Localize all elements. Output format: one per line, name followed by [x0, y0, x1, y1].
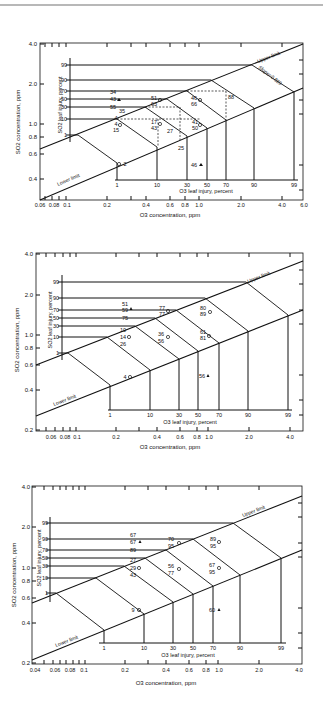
inner-y-label: SO2 leaf injury, percent [57, 76, 63, 134]
circle-marker [117, 162, 120, 165]
circle-marker [127, 335, 130, 338]
svg-text:9: 9 [131, 607, 134, 613]
svg-text:1: 1 [56, 350, 59, 356]
data-points: 34 43 55 51 63 46 66 88 35 4 4 15 17 43 … [110, 89, 234, 168]
svg-text:0.2: 0.2 [22, 660, 31, 666]
svg-text:0.1: 0.1 [80, 667, 88, 673]
svg-text:10: 10 [154, 182, 160, 188]
svg-text:4.0: 4.0 [22, 484, 31, 490]
svg-text:70: 70 [168, 536, 174, 542]
svg-text:1: 1 [108, 412, 111, 418]
svg-text:36: 36 [158, 331, 164, 337]
circle-marker [198, 123, 201, 126]
svg-text:0.8: 0.8 [202, 667, 210, 673]
svg-text:30: 30 [170, 645, 176, 651]
inner-y-label: SO2 leaf injury, percent [36, 529, 42, 587]
triangle-marker [130, 307, 133, 310]
svg-text:10: 10 [141, 645, 147, 651]
svg-text:0.6: 0.6 [166, 202, 174, 208]
svg-text:77: 77 [168, 570, 174, 576]
svg-text:27: 27 [130, 557, 136, 563]
circle-marker [177, 541, 180, 544]
iso-injury-diagonals [68, 282, 288, 385]
svg-text:60: 60 [209, 607, 215, 613]
svg-text:1: 1 [64, 132, 67, 138]
svg-text:75: 75 [122, 315, 128, 321]
y-axis-label: SO2 concentration, ppm [15, 90, 21, 155]
svg-text:0.06: 0.06 [46, 434, 57, 440]
svg-text:0.08: 0.08 [49, 202, 60, 208]
svg-text:66: 66 [191, 101, 197, 107]
svg-text:89: 89 [200, 311, 206, 317]
svg-text:27: 27 [167, 128, 173, 134]
svg-text:10: 10 [42, 575, 48, 581]
svg-text:1: 1 [102, 645, 105, 651]
svg-text:56: 56 [158, 338, 164, 344]
svg-text:1.0: 1.0 [195, 202, 203, 208]
svg-text:95: 95 [168, 543, 174, 549]
svg-text:95: 95 [209, 569, 215, 575]
inner-y-label: SO2 leaf injury, percent [47, 291, 53, 349]
svg-text:0.6: 0.6 [29, 151, 38, 157]
svg-text:2.0: 2.0 [29, 81, 38, 87]
svg-text:81: 81 [200, 335, 206, 341]
circle-marker [166, 335, 169, 338]
chart-1: 4.0 2.0 1.0 0.8 0.6 0.4 SO2 concentratio… [0, 0, 323, 240]
circle-marker [177, 567, 180, 570]
svg-text:0.2: 0.2 [25, 427, 34, 433]
chart-3: 4.0 2.0 1.0 0.8 0.6 0.4 0.2 SO2 concentr… [0, 480, 323, 714]
svg-text:1.0: 1.0 [25, 332, 34, 338]
svg-text:0.08: 0.08 [65, 667, 76, 673]
svg-text:50: 50 [192, 125, 198, 131]
svg-text:4.0: 4.0 [286, 434, 294, 440]
upper-limit-label: Upper limit [241, 504, 266, 518]
svg-text:89: 89 [130, 547, 136, 553]
svg-text:56: 56 [199, 373, 205, 379]
svg-text:90: 90 [237, 645, 243, 651]
svg-text:35: 35 [119, 108, 125, 114]
svg-text:43: 43 [110, 96, 116, 102]
svg-text:0.8: 0.8 [25, 345, 34, 351]
svg-text:6.0: 6.0 [300, 202, 308, 208]
svg-text:0.4: 0.4 [142, 202, 150, 208]
svg-text:90: 90 [53, 295, 59, 301]
svg-text:10: 10 [147, 412, 153, 418]
data-points: 67 67 89 70 95 89 95 27 29 43 56 77 67 9… [130, 532, 221, 613]
svg-text:1: 1 [115, 182, 118, 188]
svg-text:50: 50 [190, 645, 196, 651]
svg-text:15: 15 [113, 127, 119, 133]
svg-text:4.0: 4.0 [278, 202, 286, 208]
svg-text:2.0: 2.0 [245, 434, 253, 440]
svg-text:1.0: 1.0 [29, 121, 38, 127]
svg-text:34: 34 [110, 89, 116, 95]
svg-text:59: 59 [122, 307, 128, 313]
svg-text:2.0: 2.0 [255, 667, 263, 673]
svg-text:67: 67 [130, 532, 136, 538]
svg-text:0.4: 0.4 [29, 176, 38, 182]
svg-text:1.0: 1.0 [205, 434, 213, 440]
svg-text:26: 26 [120, 341, 126, 347]
svg-text:0.4: 0.4 [153, 434, 161, 440]
svg-text:90: 90 [245, 412, 251, 418]
svg-text:95: 95 [210, 543, 216, 549]
svg-text:0.6: 0.6 [185, 667, 193, 673]
svg-text:55: 55 [110, 104, 116, 110]
svg-text:30: 30 [53, 323, 59, 329]
circle-marker [217, 566, 220, 569]
svg-text:4.0: 4.0 [29, 41, 38, 47]
svg-text:25: 25 [178, 145, 184, 151]
svg-text:99: 99 [42, 520, 48, 526]
circle-marker [118, 123, 121, 126]
x-axis-label: O3 concentration, ppm [136, 680, 197, 686]
svg-text:88: 88 [228, 94, 234, 100]
svg-text:89: 89 [210, 536, 216, 542]
x-axis-label: O3 concentration, ppm [140, 212, 201, 218]
x-axis: 0.060.08 0.10.2 0.40.6 0.81.0 2.04.0 [46, 427, 294, 440]
triangle-marker [199, 163, 203, 166]
svg-text:0.6: 0.6 [22, 595, 31, 601]
inner-o3-axis: 110 3050 7090 99 [99, 558, 286, 651]
plot-frame [36, 253, 303, 431]
svg-text:63: 63 [151, 101, 157, 107]
y-axis-label: SO2 concentration, ppm [11, 543, 17, 608]
svg-text:67: 67 [209, 562, 215, 568]
